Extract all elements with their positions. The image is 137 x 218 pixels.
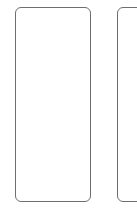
empty-card-partial[interactable] — [117, 7, 137, 202]
empty-card[interactable] — [15, 7, 91, 202]
canvas — [0, 0, 137, 218]
